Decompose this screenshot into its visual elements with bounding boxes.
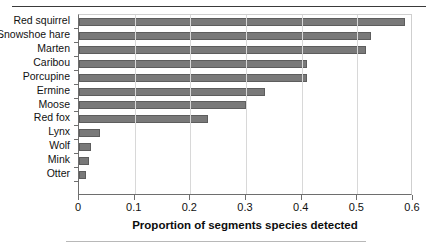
bar [79, 115, 208, 123]
y-axis-tick [74, 42, 78, 43]
bar [79, 88, 265, 96]
bar [79, 171, 86, 179]
top-divider-rule [12, 6, 426, 7]
y-axis-tick [74, 56, 78, 57]
bar [79, 129, 100, 137]
x-axis-tick-label: 0.4 [293, 201, 308, 213]
x-axis-tick [134, 195, 135, 200]
x-axis-tick [189, 195, 190, 200]
category-label: Porcupine [23, 70, 70, 84]
gridline [246, 15, 247, 194]
category-label: Lynx [48, 125, 70, 139]
x-axis-tick-label: 0.3 [237, 201, 252, 213]
category-label: Ermine [37, 84, 70, 98]
x-axis-tick-label: 0 [75, 201, 81, 213]
bar-chart-figure: Red squirrelSnowshoe hareMartenCaribouPo… [0, 0, 434, 249]
x-axis-tick [356, 195, 357, 200]
y-axis-tick [74, 111, 78, 112]
category-label: Wolf [49, 139, 70, 153]
bar [79, 60, 307, 68]
x-axis-tick [245, 195, 246, 200]
y-axis-tick [74, 153, 78, 154]
x-axis-tick-label: 0.2 [182, 201, 197, 213]
category-label: Moose [38, 98, 70, 112]
y-axis-tick [74, 167, 78, 168]
bar [79, 18, 405, 26]
y-axis-tick [74, 84, 78, 85]
x-axis-tick [78, 195, 79, 200]
gridline [357, 15, 358, 194]
y-axis-tick [74, 139, 78, 140]
category-label: Caribou [33, 56, 70, 70]
y-axis-tick [74, 70, 78, 71]
plot-area [78, 14, 412, 195]
bar [79, 143, 91, 151]
category-label: Red squirrel [13, 14, 70, 28]
y-axis-tick [74, 28, 78, 29]
bar [79, 32, 371, 40]
category-label: Mink [48, 153, 70, 167]
gridline [302, 15, 303, 194]
x-axis-tick [412, 195, 413, 200]
category-label: Red fox [34, 111, 70, 125]
x-axis-tick-label: 0.5 [349, 201, 364, 213]
x-axis-tick-label: 0.6 [404, 201, 419, 213]
category-axis-labels: Red squirrelSnowshoe hareMartenCaribouPo… [0, 14, 74, 195]
x-axis-title: Proportion of segments species detected [78, 219, 412, 231]
y-axis-tick [74, 125, 78, 126]
bar [79, 74, 307, 82]
gridline [190, 15, 191, 194]
bar [79, 101, 246, 109]
category-label: Otter [47, 167, 70, 181]
bars-container [79, 15, 411, 194]
bottom-divider-rule [66, 241, 366, 242]
bar [79, 46, 366, 54]
y-axis-tick [74, 181, 78, 182]
x-axis-tick-label: 0.1 [126, 201, 141, 213]
gridline [135, 15, 136, 194]
bar [79, 157, 89, 165]
category-label: Marten [37, 42, 70, 56]
category-label: Snowshoe hare [0, 28, 70, 42]
x-axis-tick [301, 195, 302, 200]
y-axis-tick [74, 98, 78, 99]
